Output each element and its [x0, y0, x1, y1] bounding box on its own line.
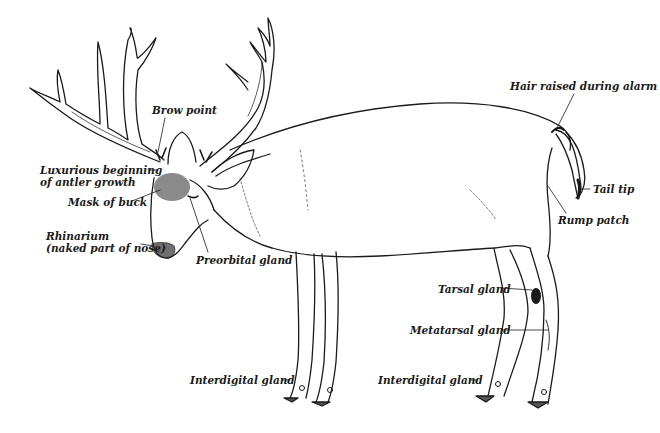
body	[230, 103, 581, 257]
head	[151, 132, 272, 258]
label-rump-patch: Rump patch	[558, 214, 630, 226]
label-tail-tip: Tail tip	[593, 183, 634, 195]
label-preorbital-gland: Preorbital gland	[196, 254, 292, 266]
label-hair-raised: Hair raised during alarm	[510, 80, 657, 92]
label-interdigital-gland-rear: Interdigital gland	[378, 374, 483, 386]
label-brow-point: Brow point	[152, 104, 217, 116]
label-rhinarium-line2: (naked part of nose)	[46, 242, 166, 254]
label-tarsal-gland: Tarsal gland	[438, 283, 511, 295]
label-mask-of-buck: Mask of buck	[68, 196, 147, 208]
deer-anatomy-diagram: Brow point Luxurious beginning of antler…	[0, 0, 660, 433]
label-metatarsal-gland: Metatarsal gland	[410, 324, 511, 336]
left-antler	[30, 28, 164, 162]
label-rhinarium-line1: Rhinarium	[46, 230, 109, 242]
right-antler	[200, 18, 274, 172]
label-antler-growth-line1: Luxurious beginning	[40, 164, 162, 176]
leader-lines	[132, 94, 590, 380]
label-interdigital-gland-front: Interdigital gland	[190, 374, 295, 386]
label-antler-growth-line2: of antler growth	[40, 176, 136, 188]
